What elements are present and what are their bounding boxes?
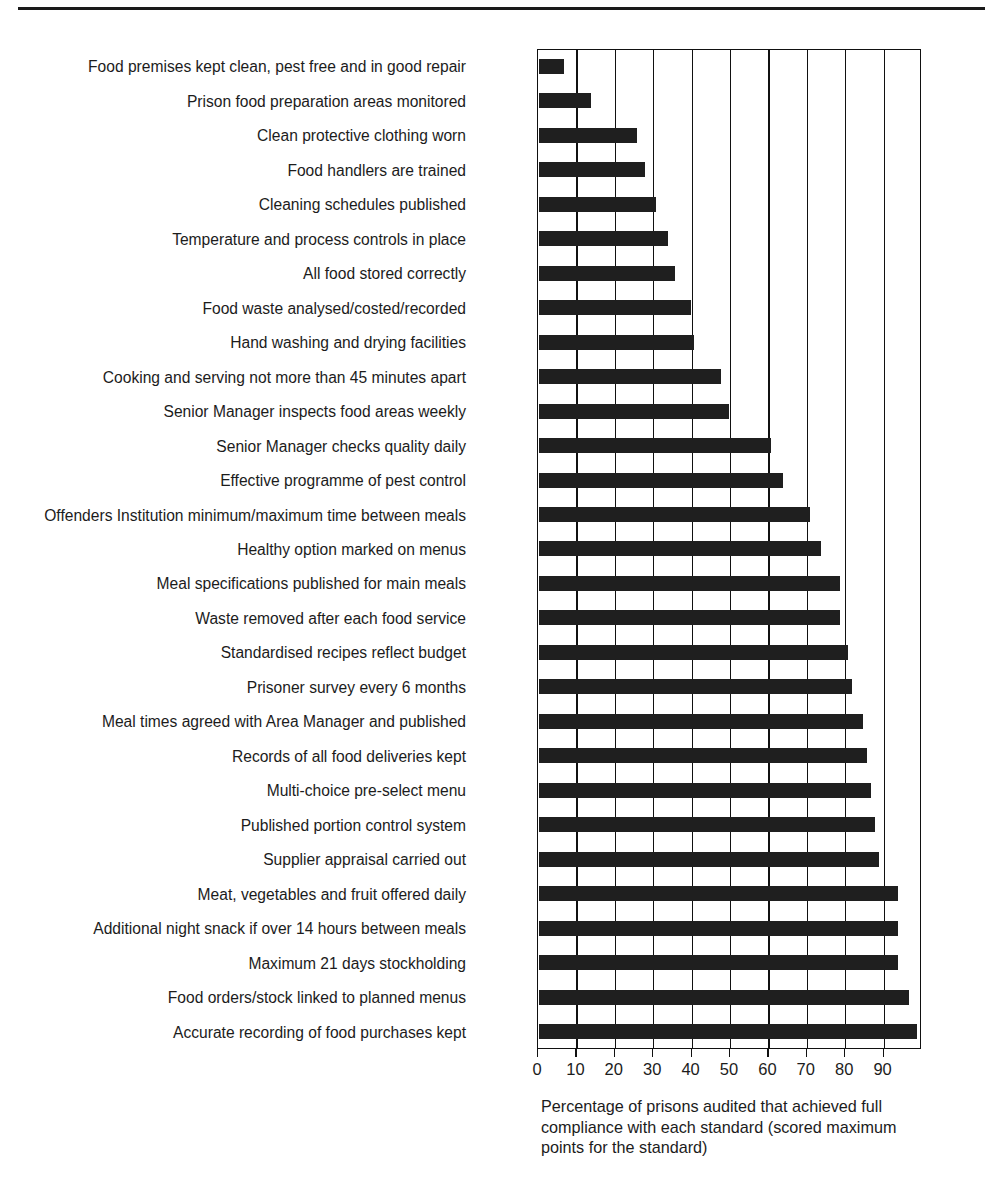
bar (539, 817, 875, 832)
category-label: Food waste analysed/costed/recorded (6, 298, 466, 317)
bar (539, 921, 898, 936)
x-tick-label: 90 (873, 1059, 891, 1079)
x-tick-80 (844, 1049, 845, 1057)
chart-row: Clean protective clothing worn (0, 118, 1000, 152)
chart-row: Waste removed after each food service (0, 601, 1000, 635)
x-tick-70 (806, 1049, 807, 1057)
chart-row: Temperature and process controls in plac… (0, 221, 1000, 255)
category-label: Cleaning schedules published (6, 195, 466, 214)
category-label: Additional night snack if over 14 hours … (6, 919, 466, 938)
bar (539, 610, 841, 625)
x-tick-label: 20 (605, 1059, 623, 1079)
bar (539, 679, 852, 694)
chart-row: Prisoner survey every 6 months (0, 670, 1000, 704)
chart-row: Meat, vegetables and fruit offered daily (0, 877, 1000, 911)
bar (539, 507, 810, 522)
chart-row: Cleaning schedules published (0, 187, 1000, 221)
bar (539, 783, 872, 798)
chart-row: Food waste analysed/costed/recorded (0, 290, 1000, 324)
bar (539, 335, 695, 350)
bar (539, 886, 898, 901)
category-label: Published portion control system (6, 815, 466, 834)
category-label: Prison food preparation areas monitored (6, 91, 466, 110)
category-label: Food orders/stock linked to planned menu… (6, 988, 466, 1007)
chart-row: Hand washing and drying facilities (0, 325, 1000, 359)
bar (539, 93, 591, 108)
chart-row: Senior Manager checks quality daily (0, 428, 1000, 462)
bar (539, 231, 668, 246)
chart-row: Multi-choice pre-select menu (0, 773, 1000, 807)
bar (539, 162, 645, 177)
bar (539, 990, 910, 1005)
category-label: Meat, vegetables and fruit offered daily (6, 884, 466, 903)
bar (539, 197, 657, 212)
category-label: Standardised recipes reflect budget (6, 643, 466, 662)
x-axis: 0102030405060708090 (537, 1049, 921, 1089)
chart-row: Additional night snack if over 14 hours … (0, 911, 1000, 945)
x-tick-label: 80 (835, 1059, 853, 1079)
category-label: Hand washing and drying facilities (6, 333, 466, 352)
chart-row: Maximum 21 days stockholding (0, 946, 1000, 980)
category-label: Senior Manager inspects food areas weekl… (6, 402, 466, 421)
x-tick-40 (691, 1049, 692, 1057)
chart-row: Food premises kept clean, pest free and … (0, 49, 1000, 83)
category-label: Meal specifications published for main m… (6, 574, 466, 593)
bar (539, 300, 691, 315)
x-tick-10 (575, 1049, 576, 1057)
bar (539, 541, 822, 556)
category-label: Waste removed after each food service (6, 608, 466, 627)
chart-row: Prison food preparation areas monitored (0, 83, 1000, 117)
x-tick-30 (652, 1049, 653, 1057)
bar (539, 955, 898, 970)
caption-line-3: points for the standard) (541, 1137, 961, 1158)
chart-row: Offenders Institution minimum/maximum ti… (0, 497, 1000, 531)
chart-row: Published portion control system (0, 808, 1000, 842)
bar (539, 714, 864, 729)
bar (539, 438, 772, 453)
x-tick-label: 60 (758, 1059, 776, 1079)
category-label: Maximum 21 days stockholding (6, 953, 466, 972)
category-label: Senior Manager checks quality daily (6, 436, 466, 455)
bar (539, 266, 676, 281)
bar-chart-figure: Food premises kept clean, pest free and … (0, 0, 1000, 1186)
bar-rows: Food premises kept clean, pest free and … (0, 49, 1000, 1049)
category-label: Healthy option marked on menus (6, 539, 466, 558)
x-tick-label: 0 (532, 1059, 541, 1079)
x-tick-0 (537, 1049, 538, 1057)
x-tick-label: 30 (643, 1059, 661, 1079)
category-label: All food stored correctly (6, 264, 466, 283)
bar (539, 404, 730, 419)
category-label: Supplier appraisal carried out (6, 850, 466, 869)
x-tick-90 (883, 1049, 884, 1057)
x-axis-caption: Percentage of prisons audited that achie… (541, 1096, 961, 1158)
chart-row: Effective programme of pest control (0, 463, 1000, 497)
category-label: Accurate recording of food purchases kep… (6, 1022, 466, 1041)
chart-row: Records of all food deliveries kept (0, 739, 1000, 773)
chart-row: Senior Manager inspects food areas weekl… (0, 394, 1000, 428)
category-label: Cooking and serving not more than 45 min… (6, 367, 466, 386)
chart-row: Supplier appraisal carried out (0, 842, 1000, 876)
x-tick-label: 40 (681, 1059, 699, 1079)
x-tick-50 (729, 1049, 730, 1057)
caption-line-1: Percentage of prisons audited that achie… (541, 1096, 961, 1117)
bar (539, 473, 783, 488)
category-label: Effective programme of pest control (6, 471, 466, 490)
bar (539, 1024, 918, 1039)
x-tick-label: 50 (720, 1059, 738, 1079)
bar (539, 748, 868, 763)
chart-row: All food stored correctly (0, 256, 1000, 290)
x-tick-20 (614, 1049, 615, 1057)
category-label: Meal times agreed with Area Manager and … (6, 712, 466, 731)
x-tick-label: 70 (797, 1059, 815, 1079)
category-label: Clean protective clothing worn (6, 126, 466, 145)
category-label: Food premises kept clean, pest free and … (6, 57, 466, 76)
chart-row: Cooking and serving not more than 45 min… (0, 359, 1000, 393)
category-label: Temperature and process controls in plac… (6, 229, 466, 248)
top-divider-rule (18, 7, 985, 10)
bar (539, 576, 841, 591)
chart-row: Food orders/stock linked to planned menu… (0, 980, 1000, 1014)
chart-row: Accurate recording of food purchases kep… (0, 1015, 1000, 1049)
bar (539, 852, 879, 867)
chart-row: Healthy option marked on menus (0, 532, 1000, 566)
category-label: Records of all food deliveries kept (6, 746, 466, 765)
